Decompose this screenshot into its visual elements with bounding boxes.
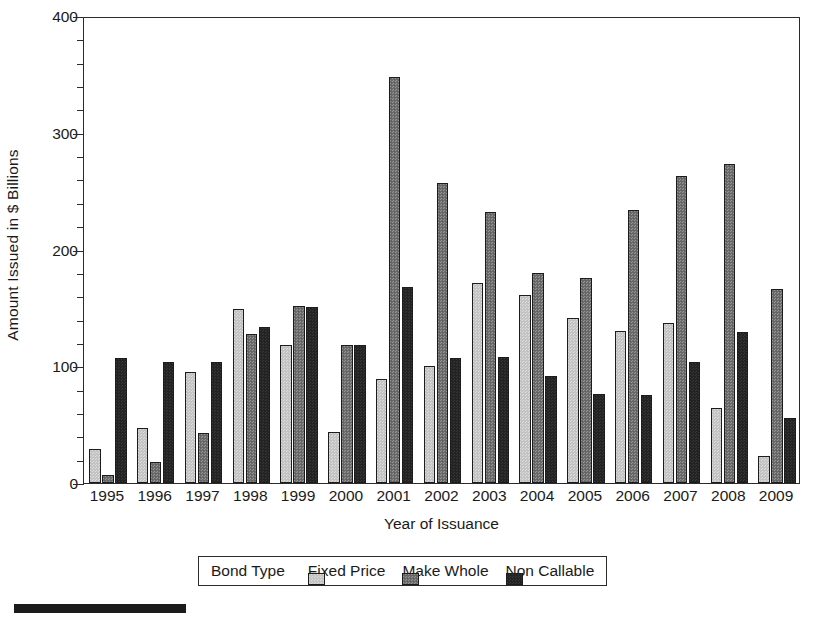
x-axis-tick-label: 2009 (759, 487, 793, 505)
bar-group (328, 18, 366, 483)
bar-group (472, 18, 510, 483)
bar (354, 345, 366, 483)
bar-group (233, 18, 271, 483)
bar (485, 212, 497, 483)
bar (115, 358, 127, 483)
bar (784, 418, 796, 483)
legend-swatch-icon (506, 573, 523, 585)
bar (341, 345, 353, 483)
bar (532, 273, 544, 483)
x-axis-tick-label: 1999 (281, 487, 315, 505)
plot-area (83, 17, 800, 484)
bar (150, 462, 162, 483)
bar (628, 210, 640, 483)
x-axis-tick-label: 1997 (185, 487, 219, 505)
bar-group (615, 18, 653, 483)
bar-group (424, 18, 462, 483)
bar (689, 362, 701, 483)
bar (580, 278, 592, 483)
legend-item: Non Callable (506, 562, 595, 580)
bar (259, 327, 271, 483)
x-axis-tick-label: 1996 (137, 487, 171, 505)
bar (676, 176, 688, 483)
x-axis-tick-label: 1995 (90, 487, 124, 505)
bar (328, 432, 340, 483)
bar-group (758, 18, 796, 483)
x-axis-tick-label: 2004 (520, 487, 554, 505)
bar-group (89, 18, 127, 483)
bar (450, 358, 462, 483)
bar (758, 456, 770, 483)
legend-item: Fixed Price (308, 562, 386, 580)
x-axis-tick-label: 2000 (329, 487, 363, 505)
bar (711, 408, 723, 483)
bar (102, 475, 114, 483)
legend-item: Make Whole (402, 562, 488, 580)
bar (472, 283, 484, 483)
bar (437, 183, 449, 483)
bar (663, 323, 675, 483)
bar-group (280, 18, 318, 483)
bar (771, 289, 783, 483)
x-axis-tick-label: 2001 (376, 487, 410, 505)
bar (402, 287, 414, 483)
bar (724, 164, 736, 483)
bar-group (663, 18, 701, 483)
x-axis-tick-label: 2002 (424, 487, 458, 505)
y-axis-tick-labels: 0100200300400 (22, 0, 78, 500)
bar-group (519, 18, 557, 483)
bar (185, 372, 197, 483)
bar (246, 334, 258, 483)
y-axis-major-tick (73, 484, 84, 485)
bar (137, 428, 149, 483)
bar (519, 295, 531, 483)
bar (280, 345, 292, 483)
bar (424, 366, 436, 483)
x-axis-title: Year of Issuance (83, 515, 800, 533)
bar (615, 331, 627, 483)
chart-legend: Bond Type Fixed PriceMake WholeNon Calla… (198, 556, 607, 586)
scan-artifact-bar (14, 604, 186, 613)
bar-group (567, 18, 605, 483)
bar-group (137, 18, 175, 483)
bar (198, 433, 210, 483)
bar (737, 332, 749, 483)
x-axis-tick-label: 2007 (663, 487, 697, 505)
bar (293, 306, 305, 483)
x-axis-tick-labels: 1995199619971998199920002001200220032004… (83, 487, 800, 511)
bar (641, 395, 653, 483)
bar (567, 318, 579, 483)
x-axis-tick-label: 2003 (472, 487, 506, 505)
bar (89, 449, 101, 483)
x-axis-tick-label: 2008 (711, 487, 745, 505)
x-axis-tick-label: 2005 (568, 487, 602, 505)
bar-group (711, 18, 749, 483)
legend-title: Bond Type (211, 562, 285, 580)
bar (593, 394, 605, 483)
bar-group (185, 18, 223, 483)
bar (545, 376, 557, 483)
x-axis-tick-label: 2006 (615, 487, 649, 505)
x-axis-tick-label: 1998 (233, 487, 267, 505)
legend-swatch-icon (308, 573, 325, 585)
y-axis-title-text: Amount Issued in $ Billions (4, 149, 22, 341)
bar-group (376, 18, 414, 483)
legend-swatch-icon (402, 573, 419, 585)
bar (376, 379, 388, 483)
bar-series-container (84, 18, 799, 483)
bar (306, 307, 318, 483)
bar (498, 357, 510, 483)
bar (211, 362, 223, 483)
bar (233, 309, 245, 483)
bar (389, 77, 401, 483)
bar (163, 362, 175, 483)
